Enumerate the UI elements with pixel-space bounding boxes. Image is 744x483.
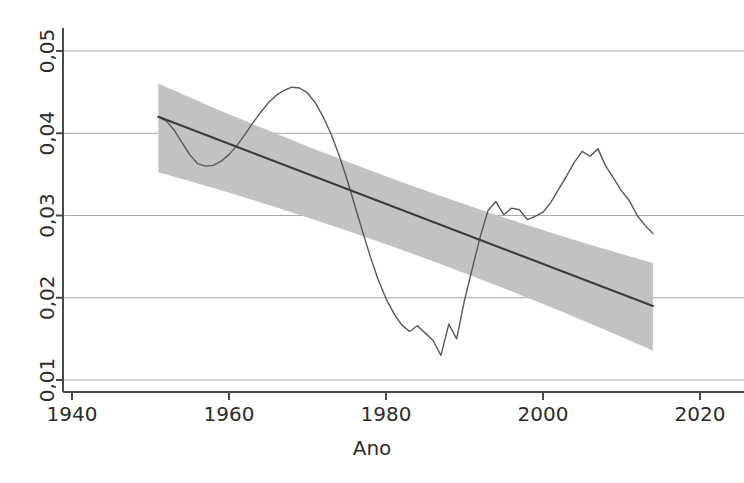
- x-tick-label-3: 2000: [518, 402, 569, 426]
- x-axis-title: Ano: [353, 436, 392, 460]
- line-chart: 0,010,020,030,040,05 1940196019802000202…: [0, 0, 744, 483]
- y-tick-label-4: 0,05: [35, 29, 59, 74]
- x-tick-label-0: 1940: [47, 402, 98, 426]
- y-tick-label-2: 0,03: [35, 193, 59, 238]
- y-tick-label-3: 0,04: [35, 111, 59, 156]
- x-tick-label-4: 2020: [675, 402, 726, 426]
- x-tick-label-2: 1980: [361, 402, 412, 426]
- chart-figure: 0,010,020,030,040,05 1940196019802000202…: [0, 0, 744, 483]
- y-tick-label-1: 0,02: [35, 275, 59, 320]
- x-tick-label-1: 1960: [204, 402, 255, 426]
- y-tick-label-0: 0,01: [35, 358, 59, 403]
